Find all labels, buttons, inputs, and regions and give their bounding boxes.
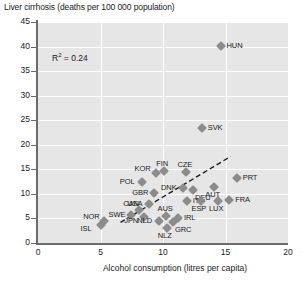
point-label-lux: LUX — [209, 204, 223, 213]
point-label-svk: SVK — [208, 123, 223, 132]
point-label-pol: POL — [120, 177, 135, 186]
y-tick-label-30: 30 — [0, 90, 30, 100]
y-tick-mark-45 — [31, 22, 36, 23]
y-tick-mark-5 — [31, 218, 36, 219]
scatter-chart-figure: Liver cirrhosis (deaths per 100 000 popu… — [0, 0, 304, 282]
x-axis-line — [36, 243, 288, 245]
x-tick-label-0: 0 — [23, 247, 53, 257]
y-tick-label-35: 35 — [0, 65, 30, 75]
point-label-dnk: DNK — [161, 183, 177, 192]
y-tick-label-40: 40 — [0, 41, 30, 51]
y-tick-mark-25 — [31, 120, 36, 121]
r-squared-annotation: R2 = 0.24 — [52, 52, 88, 63]
point-label-nor: NOR — [83, 212, 99, 221]
y-tick-label-25: 25 — [0, 114, 30, 124]
y-tick-label-15: 15 — [0, 163, 30, 173]
y-axis-line — [36, 20, 38, 245]
point-label-esp: ESP — [192, 204, 207, 213]
point-label-usa: USA — [127, 199, 142, 208]
point-label-fin: FIN — [156, 159, 168, 168]
point-label-prt: PRT — [243, 173, 258, 182]
x-axis-title: Alcohol consumption (litres per capita) — [0, 263, 304, 273]
point-label-irl: IRL — [184, 213, 195, 222]
point-label-aus: AUS — [158, 204, 173, 213]
x-tick-label-15: 15 — [211, 247, 241, 257]
x-tick-label-20: 20 — [273, 247, 303, 257]
point-label-aut: AUT — [205, 190, 220, 199]
y-tick-label-45: 45 — [0, 16, 30, 26]
point-label-nlz: NLZ — [158, 231, 172, 240]
r-value: = 0.24 — [61, 53, 87, 63]
point-label-isl: ISL — [81, 224, 92, 233]
y-tick-label-20: 20 — [0, 139, 30, 149]
point-label-gbr: GBR — [132, 188, 148, 197]
point-label-cze: CZE — [178, 160, 193, 169]
point-label-nld: NLD — [137, 216, 152, 225]
chart-title: Liver cirrhosis (deaths per 100 000 popu… — [4, 2, 175, 12]
y-tick-mark-35 — [31, 71, 36, 72]
y-tick-mark-15 — [31, 169, 36, 170]
point-label-jpn: JPN — [124, 216, 138, 225]
y-tick-mark-0 — [31, 243, 36, 244]
y-tick-mark-30 — [31, 96, 36, 97]
point-label-grc: GRC — [175, 225, 191, 234]
y-tick-mark-40 — [31, 47, 36, 48]
point-label-hun: HUN — [227, 41, 243, 50]
point-label-fra: FRA — [235, 195, 250, 204]
y-tick-mark-20 — [31, 145, 36, 146]
point-label-swe: SWE — [109, 210, 126, 219]
x-axis-title-text: Alcohol consumption (litres per capita) — [57, 263, 247, 273]
y-tick-label-0: 0 — [0, 237, 30, 247]
x-tick-label-5: 5 — [86, 247, 116, 257]
y-tick-label-5: 5 — [0, 212, 30, 222]
y-tick-label-10: 10 — [0, 188, 30, 198]
y-tick-mark-10 — [31, 194, 36, 195]
point-label-kor: KOR — [135, 164, 151, 173]
x-tick-label-10: 10 — [148, 247, 178, 257]
